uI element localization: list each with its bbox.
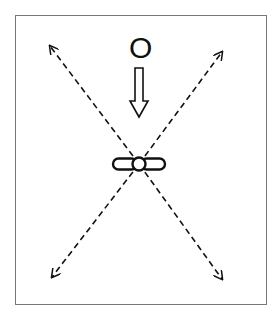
ray-top-right bbox=[139, 52, 222, 164]
diagram-canvas bbox=[0, 0, 278, 315]
ray-bottom-right bbox=[139, 164, 222, 279]
down-arrow-icon bbox=[130, 68, 148, 117]
ray-bottom-left bbox=[52, 164, 139, 277]
propeller-icon bbox=[113, 158, 165, 171]
ray-top-left bbox=[50, 46, 139, 164]
